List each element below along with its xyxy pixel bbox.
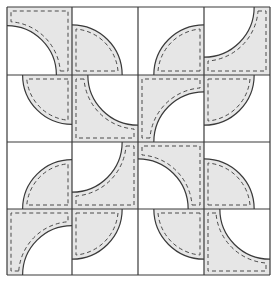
- quilt-block: [138, 209, 204, 275]
- quilt-block: [7, 7, 72, 75]
- quilt-block: [204, 7, 270, 75]
- quilt-block: [204, 75, 270, 142]
- quilt-block: [72, 7, 138, 75]
- quilt-diagram: [0, 0, 277, 282]
- quilt-block: [72, 209, 138, 275]
- quilt-block: [204, 209, 270, 275]
- quilt-block: [138, 75, 204, 142]
- quilt-block: [7, 209, 72, 275]
- quilt-block: [204, 142, 270, 209]
- quilt-block: [7, 75, 72, 142]
- quilt-block: [138, 142, 204, 209]
- quilt-block: [7, 142, 72, 209]
- quilt-block: [72, 142, 138, 209]
- quilt-block: [72, 75, 138, 142]
- quilt-block: [138, 7, 204, 75]
- quilt-grid: [0, 0, 277, 282]
